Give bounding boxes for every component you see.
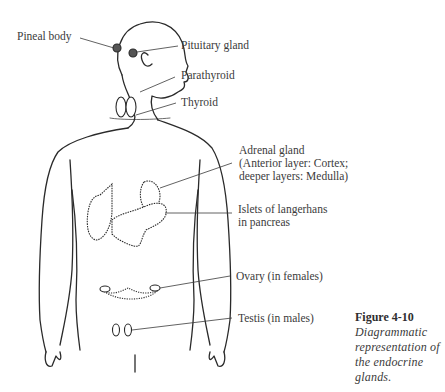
islets-line-1: Islets of langerhans (238, 203, 327, 216)
left-hand (45, 352, 61, 366)
thyroid-right-lobe (126, 97, 136, 117)
pineal-gland-shape (113, 44, 121, 52)
ear-outline (141, 53, 152, 66)
testis-left (113, 324, 120, 336)
left-torso (72, 190, 80, 350)
adrenal-line-3: deeper layers: Medulla) (239, 170, 348, 183)
label-adrenal-gland: Adrenal gland (Anterior layer: Cortex; d… (239, 144, 348, 183)
label-pineal-body: Pineal body (17, 30, 72, 43)
leader-pituitary (137, 46, 178, 52)
left-inner-arm (60, 160, 73, 345)
leader-testis (132, 318, 232, 330)
caption-text: Diagrammatic representation of the endoc… (355, 325, 445, 385)
thyroid-left-lobe (116, 97, 126, 117)
leader-thyroid (136, 103, 176, 115)
label-testis: Testis (in males) (238, 312, 314, 325)
figure-caption: Figure 4-10 Diagrammatic representation … (355, 310, 445, 385)
right-hand (209, 352, 225, 366)
label-ovary: Ovary (in females) (236, 270, 323, 283)
collar-line (110, 118, 170, 120)
label-parathyroid: Parathyroid (181, 69, 235, 82)
right-inner-arm (197, 160, 210, 345)
right-torso (190, 190, 198, 350)
adrenal-line-2: (Anterior layer: Cortex; (239, 157, 348, 170)
islets-line-2: in pancreas (238, 216, 327, 229)
pituitary-gland-shape (129, 49, 137, 57)
testis-right (125, 324, 132, 336)
label-thyroid: Thyroid (181, 96, 218, 109)
leader-adrenal (160, 163, 232, 188)
left-shoulder (39, 128, 128, 352)
adrenal-line-1: Adrenal gland (239, 144, 348, 157)
label-islets: Islets of langerhans in pancreas (238, 203, 327, 229)
ovary-right (150, 285, 160, 291)
leader-ovary (160, 276, 230, 288)
leader-parathyroid (140, 77, 175, 92)
label-pituitary-gland: Pituitary gland (181, 39, 249, 52)
ovary-left (100, 286, 110, 292)
leader-pineal (80, 38, 114, 48)
caption-title: Figure 4-10 (355, 310, 445, 325)
